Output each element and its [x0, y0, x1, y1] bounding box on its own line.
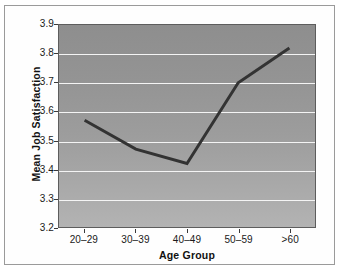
x-axis-tick-labels: 20–2930–3940–4950–59>60 [58, 234, 316, 248]
x-axis-tick-label: 50–59 [224, 234, 252, 245]
x-axis-tick-label: 20–29 [70, 234, 98, 245]
x-axis-tick-label: 30–39 [121, 234, 149, 245]
y-axis-title: Mean Job Satisfaction [30, 22, 42, 226]
x-axis-tick-mark [84, 229, 85, 233]
x-axis-tick-mark [135, 229, 136, 233]
x-axis-tick-mark [290, 229, 291, 233]
x-axis-title: Age Group [58, 249, 316, 261]
data-series-line [59, 25, 315, 227]
plot-area [58, 24, 316, 228]
x-axis-tick-mark [239, 229, 240, 233]
x-axis-tick-mark [187, 229, 188, 233]
chart-figure: 3.93.83.73.63.53.43.33.2 20–2930–3940–49… [0, 0, 341, 277]
x-axis-tick-label: >60 [282, 234, 299, 245]
y-axis-tick-mark [54, 228, 58, 229]
x-axis-tick-label: 40–49 [173, 234, 201, 245]
